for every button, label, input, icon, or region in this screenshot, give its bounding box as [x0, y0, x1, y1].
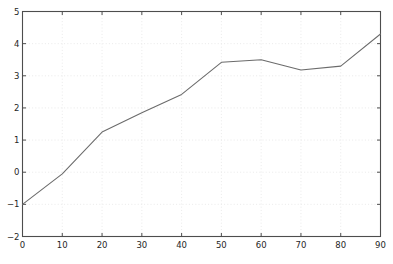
x-tick-label: 90	[375, 241, 386, 250]
x-tick-label: 40	[176, 241, 187, 250]
x-tick-label: 70	[296, 241, 307, 250]
x-tick-label: 20	[97, 241, 108, 250]
data-series-group	[23, 34, 381, 204]
y-tick-label: 4	[14, 39, 19, 48]
x-tick-label: 30	[136, 241, 147, 250]
x-tick-label: 10	[57, 241, 68, 250]
axes-frame	[23, 12, 381, 237]
y-tick-label: 2	[14, 104, 19, 113]
y-tick-label: −1	[7, 200, 20, 209]
x-tick-label: 0	[20, 241, 25, 250]
y-tick-label: −2	[7, 232, 20, 241]
y-tick-label: 5	[14, 7, 19, 16]
line-chart-plot	[0, 0, 393, 264]
y-tick-label: 1	[14, 136, 19, 145]
x-tick-label: 80	[335, 241, 346, 250]
grid-lines	[23, 12, 381, 237]
y-tick-label: 0	[14, 168, 19, 177]
axis-ticks	[23, 12, 381, 237]
y-tick-label: 3	[14, 72, 19, 81]
x-tick-label: 60	[256, 241, 267, 250]
data-line-series-0	[23, 34, 381, 204]
figure-canvas: 0102030405060708090 −2−1012345	[0, 0, 393, 264]
x-tick-label: 50	[216, 241, 227, 250]
